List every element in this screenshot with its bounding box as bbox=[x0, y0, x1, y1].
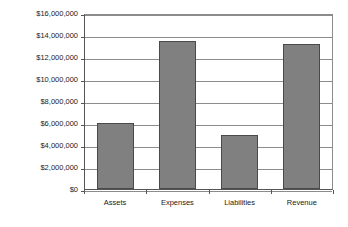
x-axis-category-label: Assets bbox=[84, 198, 146, 207]
y-axis-tick-label: $0 bbox=[2, 186, 78, 194]
y-axis-tick-label: $14,000,000 bbox=[2, 32, 78, 40]
x-axis-tick bbox=[333, 190, 334, 194]
x-axis-tick bbox=[209, 190, 210, 194]
y-axis-tick-label: $12,000,000 bbox=[2, 54, 78, 62]
bar-chart: $0$2,000,000$4,000,000$6,000,000$8,000,0… bbox=[0, 0, 348, 227]
y-axis-tick-label: $2,000,000 bbox=[2, 164, 78, 172]
bar-slot bbox=[147, 15, 209, 189]
x-axis-category-label: Revenue bbox=[271, 198, 333, 207]
x-axis-tick bbox=[146, 190, 147, 194]
bar-slot bbox=[85, 15, 147, 189]
x-axis-category-label: Expenses bbox=[146, 198, 208, 207]
bars-layer bbox=[85, 15, 332, 189]
y-axis-tick-label: $16,000,000 bbox=[2, 10, 78, 18]
bar-liabilities bbox=[221, 135, 258, 189]
bar-slot bbox=[270, 15, 332, 189]
bar-expenses bbox=[159, 41, 196, 190]
y-axis-tick-label: $6,000,000 bbox=[2, 120, 78, 128]
y-axis-tick-label: $8,000,000 bbox=[2, 98, 78, 106]
y-axis-tick-label: $4,000,000 bbox=[2, 142, 78, 150]
y-axis-tick-label: $10,000,000 bbox=[2, 76, 78, 84]
x-axis-labels: AssetsExpensesLiabilitiesRevenue bbox=[84, 198, 333, 207]
bar-assets bbox=[97, 123, 134, 189]
x-axis-category-label: Liabilities bbox=[209, 198, 271, 207]
x-axis-tick bbox=[271, 190, 272, 194]
bar-slot bbox=[209, 15, 271, 189]
plot-area bbox=[84, 14, 333, 190]
x-axis-tick bbox=[84, 190, 85, 194]
bar-revenue bbox=[283, 44, 320, 189]
